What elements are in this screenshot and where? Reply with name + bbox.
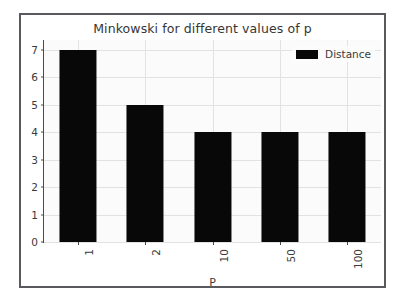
y-tick-label: 5 xyxy=(31,99,38,111)
legend-swatch-distance xyxy=(296,50,318,59)
y-tick-mark xyxy=(41,104,44,105)
bar-2 xyxy=(127,105,164,242)
x-tick-label-2: 2 xyxy=(150,249,162,256)
y-tick-mark xyxy=(41,214,44,215)
y-tick-mark xyxy=(41,132,44,133)
x-tick-label-100: 100 xyxy=(352,249,364,269)
y-tick-mark xyxy=(41,49,44,50)
x-tick-label-50: 50 xyxy=(285,249,297,262)
x-axis-label: P xyxy=(44,276,381,289)
x-tick-mark xyxy=(347,242,348,245)
x-tick-label-10: 10 xyxy=(218,249,230,262)
x-tick-mark xyxy=(280,242,281,245)
bar-100 xyxy=(329,132,366,242)
x-tick-mark xyxy=(78,242,79,245)
y-tick-label: 4 xyxy=(31,126,38,138)
chart-title: Minkowski for different values of p xyxy=(21,21,384,36)
legend-label-distance: Distance xyxy=(325,48,371,60)
x-tick-mark xyxy=(145,242,146,245)
x-tick-label-1: 1 xyxy=(83,249,95,256)
y-tick-label: 7 xyxy=(31,44,38,56)
y-tick-label: 1 xyxy=(31,209,38,221)
x-tick-mark xyxy=(213,242,214,245)
y-tick-label: 2 xyxy=(31,181,38,193)
bar-50 xyxy=(261,132,298,242)
plot-area: 01234567 121050100 P Distance xyxy=(43,40,381,243)
y-tick-label: 6 xyxy=(31,71,38,83)
y-tick-mark xyxy=(41,242,44,243)
y-tick-label: 0 xyxy=(31,236,38,248)
chart-legend: Distance xyxy=(292,46,375,62)
y-tick-mark xyxy=(41,159,44,160)
bar-1 xyxy=(59,50,96,242)
y-tick-label: 3 xyxy=(31,154,38,166)
y-tick-mark xyxy=(41,77,44,78)
figure-frame: Minkowski for different values of p 0123… xyxy=(19,13,386,288)
bar-10 xyxy=(194,132,231,242)
y-tick-mark xyxy=(41,187,44,188)
